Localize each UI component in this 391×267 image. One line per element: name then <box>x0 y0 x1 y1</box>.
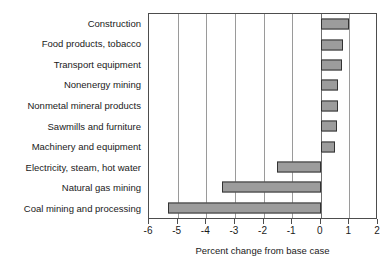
category-label: Transport equipment <box>0 54 146 75</box>
category-label: Coal mining and processing <box>0 198 146 219</box>
x-axis-tick <box>205 219 206 224</box>
bar-row <box>149 96 376 116</box>
x-axis-tick-label: -2 <box>258 226 267 236</box>
x-axis-tick-label: 0 <box>317 226 323 236</box>
bar[interactable] <box>222 182 321 193</box>
bar[interactable] <box>168 202 321 213</box>
x-axis-tick-labels: -6-5-4-3-2-1012 <box>148 226 377 240</box>
x-axis-tick <box>291 219 292 224</box>
bar-row <box>149 14 376 34</box>
x-axis-tick-label: 1 <box>346 226 352 236</box>
bar[interactable] <box>321 60 342 71</box>
bar[interactable] <box>321 39 343 50</box>
category-label: Natural gas mining <box>0 178 146 199</box>
bar[interactable] <box>277 162 321 173</box>
category-label: Sawmills and furniture <box>0 116 146 137</box>
bar[interactable] <box>321 121 337 132</box>
bar-row <box>149 177 376 197</box>
category-label: Food products, tobacco <box>0 34 146 55</box>
bar-row <box>149 198 376 218</box>
x-axis-tick-label: -1 <box>287 226 296 236</box>
x-axis-title: Percent change from base case <box>148 246 377 256</box>
bar[interactable] <box>321 141 335 152</box>
bar-row <box>149 136 376 156</box>
category-label: Electricity, steam, hot water <box>0 157 146 178</box>
category-label: Machinery and equipment <box>0 137 146 158</box>
x-axis-tick <box>348 219 349 224</box>
bar[interactable] <box>321 80 339 91</box>
bar-row <box>149 116 376 136</box>
x-axis-tick <box>320 219 321 224</box>
x-axis-tick-label: 2 <box>374 226 380 236</box>
bar-row <box>149 75 376 95</box>
x-axis-tick-label: -3 <box>229 226 238 236</box>
bar[interactable] <box>321 100 338 111</box>
x-axis-tick <box>234 219 235 224</box>
category-label: Nonmetal mineral products <box>0 95 146 116</box>
x-axis-tick <box>177 219 178 224</box>
category-label: Construction <box>0 13 146 34</box>
x-axis-tick <box>263 219 264 224</box>
category-axis: ConstructionFood products, tobaccoTransp… <box>0 13 146 219</box>
bar-row <box>149 34 376 54</box>
category-label: Nonenergy mining <box>0 75 146 96</box>
bar-chart: ConstructionFood products, tobaccoTransp… <box>0 0 391 267</box>
x-axis-tick-label: -5 <box>172 226 181 236</box>
bar-row <box>149 55 376 75</box>
bar[interactable] <box>321 19 350 30</box>
bars-layer <box>149 14 376 218</box>
x-axis-tick <box>377 219 378 224</box>
bar-row <box>149 157 376 177</box>
x-axis-tick-label: -4 <box>201 226 210 236</box>
plot-area <box>148 13 377 219</box>
x-axis-tick <box>148 219 149 224</box>
x-axis-tick-label: -6 <box>144 226 153 236</box>
